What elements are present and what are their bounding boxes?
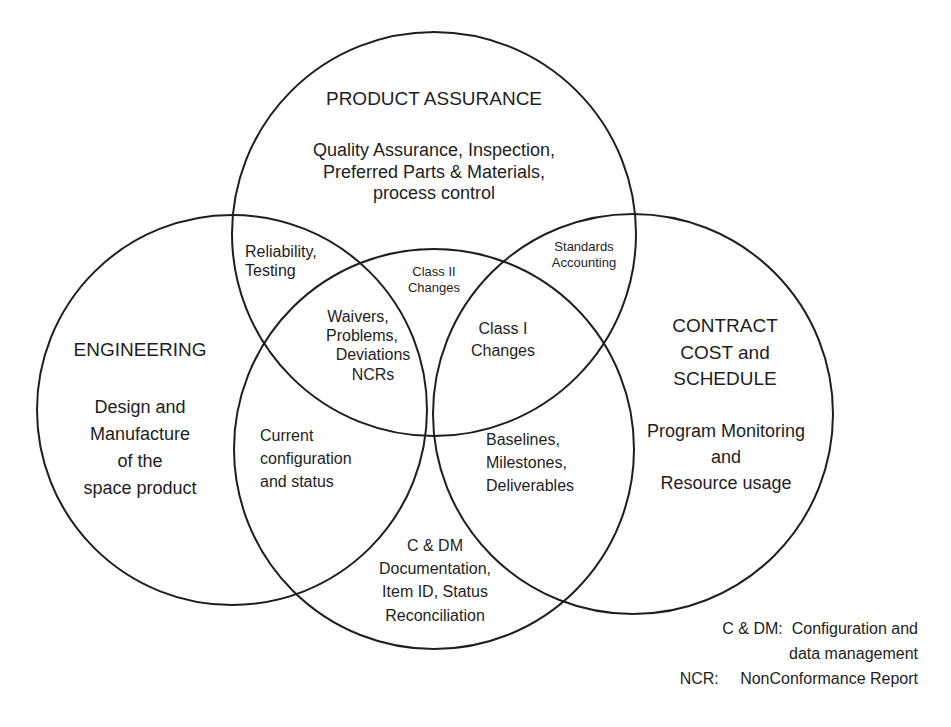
overlap-cdm-documentation: C & DM Documentation, Item ID, Status Re… xyxy=(360,534,510,627)
overlap-waivers-problems: Waivers, Problems, Deviations NCRs xyxy=(294,307,444,384)
legend-item-cdm-cont: data management xyxy=(680,642,918,667)
overlap-line: Changes xyxy=(460,340,546,362)
desc-line: Design and xyxy=(52,394,228,421)
overlap-line: Milestones, xyxy=(486,451,574,474)
legend-definition: data management xyxy=(789,645,918,662)
engineering-desc: Design and Manufacture of the space prod… xyxy=(52,394,228,502)
engineering-title: ENGINEERING xyxy=(52,339,228,362)
overlap-line: Changes xyxy=(396,280,472,296)
contract-desc: Program Monitoring and Resource usage xyxy=(630,418,822,496)
overlap-line: Problems, xyxy=(280,326,444,345)
overlap-reliability-testing: Reliability, Testing xyxy=(245,242,317,280)
overlap-class-i-changes: Class I Changes xyxy=(460,318,546,363)
overlap-line: Class II xyxy=(396,264,472,280)
desc-line: of the xyxy=(52,448,228,475)
overlap-line: Deliverables xyxy=(486,474,574,497)
overlap-line: Class I xyxy=(460,318,546,340)
overlap-line: Reconciliation xyxy=(360,604,510,627)
overlap-line: Item ID, Status xyxy=(360,580,510,603)
overlap-line: Testing xyxy=(245,261,317,280)
desc-line: and xyxy=(630,444,822,470)
contract-title: CONTRACT COST and SCHEDULE xyxy=(660,313,790,393)
product-assurance-title: PRODUCT ASSURANCE xyxy=(304,88,564,111)
title-line: COST and xyxy=(660,340,790,367)
desc-line: Manufacture xyxy=(52,421,228,448)
desc-line: Resource usage xyxy=(630,470,822,496)
overlap-class-ii-changes: Class II Changes xyxy=(396,264,472,295)
overlap-standards-accounting: Standards Accounting xyxy=(542,239,626,270)
overlap-line: Deviations xyxy=(302,345,444,364)
overlap-baselines-milestones: Baselines, Milestones, Deliverables xyxy=(486,428,574,498)
legend-abbr: NCR: xyxy=(680,667,736,692)
overlap-line: Current xyxy=(260,424,352,447)
title-line: CONTRACT xyxy=(660,313,790,340)
product-assurance-desc: Quality Assurance, Inspection, Preferred… xyxy=(264,140,604,205)
desc-line: Quality Assurance, Inspection, xyxy=(264,140,604,162)
overlap-line: C & DM xyxy=(360,534,510,557)
desc-line: process control xyxy=(264,183,604,205)
overlap-line: configuration xyxy=(260,447,352,470)
title-line: SCHEDULE xyxy=(660,366,790,393)
desc-line: space product xyxy=(52,475,228,502)
legend-item-cdm: C & DM: Configuration and xyxy=(680,617,918,642)
overlap-line: Waivers, xyxy=(272,307,444,326)
desc-line: Program Monitoring xyxy=(630,418,822,444)
legend: C & DM: Configuration and data managemen… xyxy=(680,617,918,691)
legend-abbr: C & DM: xyxy=(722,620,782,637)
desc-line: Preferred Parts & Materials, xyxy=(264,162,604,184)
overlap-line: Reliability, xyxy=(245,242,317,261)
overlap-line: Documentation, xyxy=(360,557,510,580)
legend-item-ncr: NCR: NonConformance Report xyxy=(680,667,918,692)
overlap-line: Baselines, xyxy=(486,428,574,451)
overlap-line: and status xyxy=(260,470,352,493)
legend-definition: NonConformance Report xyxy=(740,670,918,687)
overlap-current-configuration: Current configuration and status xyxy=(260,424,352,494)
overlap-line: NCRs xyxy=(302,365,444,384)
overlap-line: Accounting xyxy=(542,255,626,271)
legend-definition: Configuration and xyxy=(792,620,918,637)
overlap-line: Standards xyxy=(542,239,626,255)
